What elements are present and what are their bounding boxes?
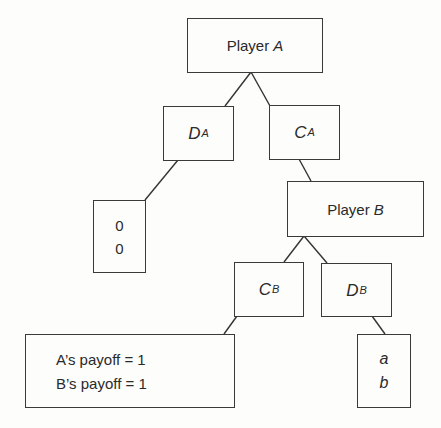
edge-CA-playerB (299, 159, 311, 181)
edge-CB-payoff (224, 316, 237, 334)
action-da-main: D (188, 125, 200, 142)
edge-DB-leafab (372, 316, 385, 334)
player-b-label-prefix: Player (327, 202, 374, 217)
action-defect-a-node: DA (163, 106, 234, 161)
betray-outcome-leaf: a b (357, 334, 411, 408)
player-b-label-var: B (374, 202, 384, 217)
player-a-node: Player A (187, 18, 323, 73)
edge-playerA-CA (251, 72, 270, 106)
action-cooperate-a-node: CA (269, 105, 340, 160)
defect-outcome-leaf: 0 0 (93, 200, 146, 273)
edge-playerA-DA (225, 72, 251, 106)
player-a-label-var: A (273, 38, 283, 53)
action-cb-main: C (259, 281, 271, 298)
edge-playerB-DB (304, 236, 327, 263)
action-da-sub: A (201, 128, 208, 139)
defect-outcome-a: 0 (115, 218, 123, 233)
betray-outcome-a: a (380, 351, 389, 367)
cooperate-outcome-leaf: A’s payoff = 1 B’s payoff = 1 (25, 334, 235, 408)
edge-playerB-CB (284, 236, 304, 262)
player-a-label-prefix: Player (227, 38, 274, 53)
defect-outcome-b: 0 (115, 241, 123, 256)
betray-outcome-b: b (380, 375, 389, 391)
game-tree-diagram: Player A DA CA 0 0 Player B CB DB A’s pa… (0, 0, 441, 428)
player-b-node: Player B (287, 181, 424, 237)
cooperate-outcome-b: B’s payoff = 1 (56, 376, 147, 391)
action-ca-main: C (294, 124, 306, 141)
action-cb-sub: B (272, 284, 279, 295)
action-db-sub: B (359, 285, 366, 296)
edge-DA-leaf00 (145, 160, 178, 200)
action-ca-sub: A (307, 127, 314, 138)
action-defect-b-node: DB (321, 263, 392, 317)
action-cooperate-b-node: CB (234, 262, 304, 317)
cooperate-outcome-a: A’s payoff = 1 (56, 352, 146, 367)
action-db-main: D (346, 282, 358, 299)
